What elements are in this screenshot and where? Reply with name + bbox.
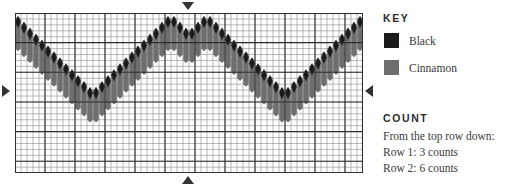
key-entry-black: Black: [384, 33, 436, 48]
legend-panel: KEY Black Cinnamon COUNT From the top ro…: [383, 0, 513, 190]
key-heading: KEY: [383, 12, 409, 24]
cinnamon-swatch: [384, 60, 399, 75]
chart-svg: [15, 13, 363, 173]
key-label-black: Black: [409, 35, 436, 47]
count-line-row2: Row 2: 6 counts: [383, 160, 495, 176]
count-lines: From the top row down: Row 1: 3 counts R…: [383, 128, 495, 176]
count-line-row1: Row 1: 3 counts: [383, 144, 495, 160]
repeat-marker-right-icon: [2, 85, 10, 97]
key-entry-cinnamon: Cinnamon: [384, 60, 457, 75]
chart-panel: [0, 0, 375, 190]
repeat-marker-left-icon: [365, 85, 373, 97]
count-heading: COUNT: [383, 112, 428, 124]
count-line-intro: From the top row down:: [383, 128, 495, 144]
chart-grid[interactable]: [15, 13, 363, 173]
repeat-marker-down-icon: [182, 2, 194, 10]
repeat-marker-up-icon: [182, 176, 194, 184]
pattern-chart-page: KEY Black Cinnamon COUNT From the top ro…: [0, 0, 513, 190]
key-label-cinnamon: Cinnamon: [409, 62, 457, 74]
black-swatch: [384, 33, 399, 48]
